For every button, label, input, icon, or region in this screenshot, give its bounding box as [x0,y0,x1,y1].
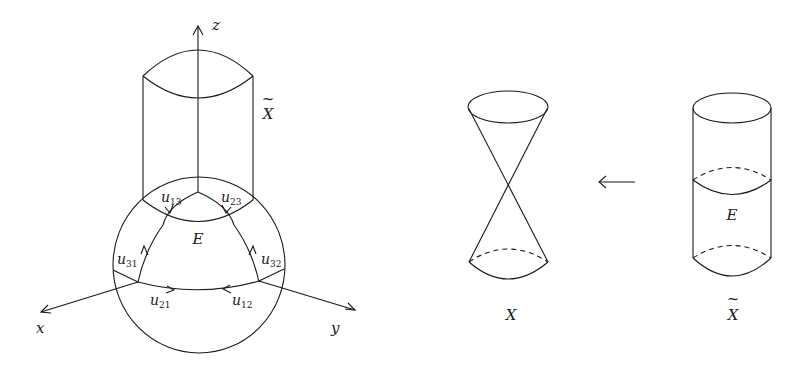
resolution-label: X [727,306,740,324]
x-tilde-label: X [262,105,275,123]
cone-top-ellipse [468,91,548,123]
label-u23: u23 [221,189,242,207]
arrow-u31-icon [141,246,148,255]
resolution-map-arrow [599,176,635,188]
sphere [113,177,285,353]
arrow-u32-icon [249,246,256,255]
left-figure: z x y ~ X [36,16,355,353]
cone-label: X [505,306,518,324]
blowup-diagram: z x y ~ X [0,0,804,371]
x-axis: x [36,282,138,337]
exceptional-divisor-label-right: E [726,206,738,224]
double-cone: X [468,91,548,324]
y-axis-label: y [330,319,340,337]
x-axis-label: x [36,319,45,337]
cylinder-top-ellipse [693,93,771,123]
z-axis: z [193,16,220,192]
y-axis-arrowhead-icon [345,303,355,310]
z-axis-label: z [211,16,220,34]
arrow-u12-icon [223,285,231,293]
exceptional-divisor-label-left: E [192,230,204,248]
arrow-u21-icon [166,286,174,293]
label-u32: u32 [261,251,281,269]
label-u21: u21 [150,292,170,310]
resolution-cylinder: E ~ X [693,93,771,324]
label-u12: u12 [232,292,252,310]
label-u31: u31 [117,251,137,269]
label-u13: u13 [161,189,182,207]
